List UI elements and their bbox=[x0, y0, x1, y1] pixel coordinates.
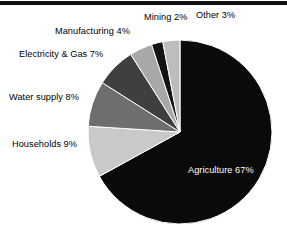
chart-page: Agriculture 67% Households 9% Water supp… bbox=[0, 0, 287, 246]
pie-chart: Agriculture 67% Households 9% Water supp… bbox=[0, 0, 287, 246]
pie-label-electricity-and-gas: Electricity & Gas 7% bbox=[19, 49, 103, 60]
pie-label-manufacturing: Manufacturing 4% bbox=[55, 26, 130, 37]
pie-label-households: Households 9% bbox=[12, 139, 77, 150]
pie-label-agriculture: Agriculture 67% bbox=[188, 165, 254, 176]
pie-chart-svg bbox=[0, 0, 287, 246]
pie-label-water-supply: Water supply 8% bbox=[9, 92, 79, 103]
pie-label-other: Other 3% bbox=[196, 10, 235, 21]
pie-label-mining: Mining 2% bbox=[144, 12, 187, 23]
pie-slice-group bbox=[88, 40, 272, 224]
